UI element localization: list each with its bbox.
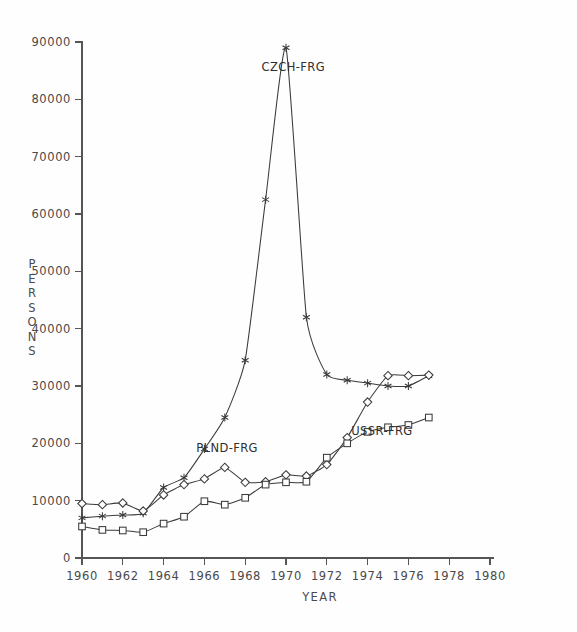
- y-tick-label: 60000: [31, 207, 71, 221]
- data-point-marker-square: [201, 498, 208, 505]
- data-point-marker-diamond: [180, 480, 188, 488]
- data-point-marker-asterisk: [303, 313, 310, 321]
- data-point-marker-square: [324, 454, 331, 461]
- data-point-marker-diamond: [241, 478, 249, 486]
- x-axis: 1960196219641966196819701972197419761978…: [66, 558, 506, 583]
- data-point-marker-square: [160, 520, 167, 527]
- data-point-marker-diamond: [221, 463, 229, 471]
- data-point-marker-square: [283, 479, 290, 486]
- y-tick-label: 70000: [31, 150, 71, 164]
- series-annotations: CZCH-FRGPLND-FRGUSSR-FRG: [196, 60, 412, 455]
- data-point-marker-square: [140, 529, 147, 536]
- y-tick-label: 40000: [31, 322, 71, 336]
- y-tick-label: 80000: [31, 92, 71, 106]
- data-point-marker-square: [344, 440, 351, 447]
- x-tick-label: 1974: [352, 569, 384, 583]
- data-point-marker-diamond: [282, 471, 290, 479]
- data-point-marker-square: [79, 523, 86, 530]
- y-axis-title: PERSONS: [27, 257, 36, 358]
- y-tick-label: 0: [63, 551, 71, 565]
- y-axis-title-char: E: [28, 272, 35, 286]
- data-point-marker-diamond: [119, 499, 127, 507]
- y-tick-label: 30000: [31, 379, 71, 393]
- chart-page: 0100002000030000400005000060000700008000…: [0, 0, 577, 632]
- data-point-marker-square: [120, 527, 127, 534]
- x-tick-label: 1966: [189, 569, 221, 583]
- y-axis-title-char: N: [28, 330, 37, 344]
- series-label-ussr-frg: USSR-FRG: [351, 424, 412, 438]
- data-point-marker-square: [222, 501, 229, 508]
- data-point-marker-diamond: [363, 398, 371, 406]
- y-tick-label: 20000: [31, 436, 71, 450]
- data-point-marker-square: [262, 481, 269, 488]
- data-point-marker-asterisk: [221, 414, 228, 422]
- series-label-czch-frg: CZCH-FRG: [262, 60, 325, 74]
- data-point-marker-diamond: [425, 371, 433, 379]
- series-lines: [78, 44, 433, 536]
- x-tick-label: 1976: [393, 569, 425, 583]
- y-axis-title-char: S: [28, 301, 35, 315]
- data-point-marker-square: [242, 495, 249, 502]
- line-chart: 0100002000030000400005000060000700008000…: [0, 0, 577, 632]
- x-axis-ticks: 1960196219641966196819701972197419761978…: [66, 558, 506, 583]
- x-tick-label: 1960: [66, 569, 98, 583]
- data-point-marker-square: [99, 527, 106, 534]
- y-tick-label: 10000: [31, 494, 71, 508]
- data-point-marker-square: [426, 414, 433, 421]
- x-tick-label: 1970: [270, 569, 302, 583]
- data-point-marker-asterisk: [242, 356, 249, 364]
- y-tick-label: 50000: [31, 264, 71, 278]
- x-tick-label: 1964: [148, 569, 180, 583]
- y-axis-title-char: P: [29, 257, 36, 271]
- x-tick-label: 1972: [311, 569, 343, 583]
- series-label-plnd-frg: PLND-FRG: [196, 441, 258, 455]
- y-axis: 0100002000030000400005000060000700008000…: [31, 35, 82, 565]
- data-point-marker-asterisk: [262, 196, 269, 204]
- data-point-marker-asterisk: [283, 44, 290, 52]
- data-point-marker-diamond: [200, 475, 208, 483]
- y-tick-label: 90000: [31, 35, 71, 49]
- data-point-marker-diamond: [98, 500, 106, 508]
- data-point-marker-square: [181, 513, 188, 520]
- y-axis-title-char: S: [28, 344, 35, 358]
- y-axis-ticks: 0100002000030000400005000060000700008000…: [31, 35, 82, 565]
- data-point-marker-square: [303, 478, 310, 485]
- x-axis-title: YEAR: [301, 590, 338, 604]
- x-tick-label: 1962: [107, 569, 139, 583]
- x-tick-label: 1978: [433, 569, 465, 583]
- x-tick-label: 1968: [229, 569, 261, 583]
- x-tick-label: 1980: [474, 569, 506, 583]
- y-axis-title-char: R: [28, 286, 36, 300]
- y-axis-title-char: O: [27, 315, 36, 329]
- data-point-marker-diamond: [404, 371, 412, 379]
- data-point-marker-asterisk: [323, 371, 330, 379]
